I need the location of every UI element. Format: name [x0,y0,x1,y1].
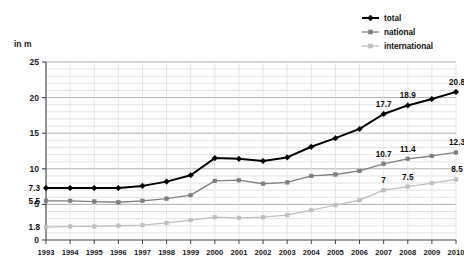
data-point-international [213,215,217,219]
series-line-international [46,179,456,227]
data-point-international [285,213,289,217]
data-point-international [309,208,313,212]
data-point-national [261,182,265,186]
data-point-national [334,173,338,177]
data-point-total [284,155,290,161]
point-value-label: 7 [381,176,386,185]
chart-legend: totalnationalinternational [362,14,433,51]
x-tick-label: 1998 [158,248,175,257]
data-point-national [116,200,120,204]
point-value-label: 18.9 [400,91,416,100]
y-axis-tick-labels: 0510152025 [30,57,40,245]
data-point-international [358,198,362,202]
x-tick-label: 1994 [62,248,80,257]
x-tick-label: 2008 [399,248,416,257]
point-value-label: 12.3 [449,138,464,147]
x-tick-label: 2003 [279,248,296,257]
data-point-international [116,224,120,228]
point-value-label: 5.5 [29,197,41,206]
data-point-national [213,179,217,183]
point-value-label: 8.5 [451,165,463,174]
chart-axes [46,62,456,240]
data-point-international [261,215,265,219]
x-tick-label: 2009 [423,248,440,257]
y-tick-label: 15 [30,128,40,138]
x-axis-tick-labels: 1993199419951996199719981999200020012002… [38,248,464,257]
point-value-label: 11.4 [400,145,416,154]
data-point-national [358,169,362,173]
y-tick-label: 20 [30,93,40,103]
data-point-national [141,199,145,203]
grid-minor-lines [46,69,456,233]
data-point-international [141,223,145,227]
legend-label-national: national [384,28,415,37]
data-point-national [165,197,169,201]
data-point-total [405,103,411,109]
data-point-national [237,178,241,182]
line-chart: 0510152025 19931994199519961997199819992… [0,0,464,274]
data-point-national [382,162,386,166]
data-point-international [430,181,434,185]
point-value-label: 17.7 [376,100,392,109]
grid-vertical-lines [46,62,456,240]
x-tick-label: 1993 [38,248,55,257]
x-tick-label: 1997 [134,248,151,257]
point-value-label: 10.7 [376,150,392,159]
point-value-label: 7.3 [29,184,41,193]
x-axis-tick-marks [46,240,456,244]
point-value-label: 20.8 [449,78,464,87]
x-tick-label: 1999 [182,248,199,257]
legend-label-international: international [384,42,433,51]
data-point-international [237,216,241,220]
data-point-total [236,156,242,162]
data-point-international [454,178,458,182]
x-tick-label: 1996 [110,248,127,257]
x-tick-label: 1995 [86,248,104,257]
data-point-national [92,200,96,204]
series-line-total [46,92,456,188]
legend-label-total: total [384,14,401,23]
y-tick-label: 25 [30,57,40,67]
data-point-total [140,183,146,189]
data-point-international [406,185,410,189]
y-axis-unit-label: in m [14,39,32,49]
data-point-national [68,199,72,203]
point-value-label: 1.8 [29,223,41,232]
legend-marker-total [368,15,374,21]
data-point-total [164,179,170,185]
data-point-national [406,157,410,161]
data-point-international [165,221,169,225]
data-point-national [454,151,458,155]
x-tick-label: 2002 [255,248,272,257]
series-lines [46,92,456,227]
x-tick-label: 2001 [230,248,248,257]
data-point-international [92,225,96,229]
x-tick-label: 2007 [375,248,392,257]
data-point-national [189,193,193,197]
data-point-national [44,199,48,203]
data-point-national [430,154,434,158]
y-tick-label: 10 [30,164,40,174]
data-point-international [189,218,193,222]
data-point-total [453,89,459,95]
x-tick-label: 2004 [303,248,321,257]
y-tick-label: 0 [34,235,39,245]
point-value-label: 7.5 [402,173,414,182]
legend-marker-national [368,30,372,34]
data-point-international [44,225,48,229]
data-point-international [334,203,338,207]
x-tick-label: 2006 [351,248,368,257]
data-point-national [309,174,313,178]
data-point-total [260,158,266,164]
legend-marker-international [368,44,372,48]
chart-canvas: 0510152025 19931994199519961997199819992… [0,0,464,274]
x-tick-label: 2000 [206,248,223,257]
data-point-national [285,180,289,184]
x-tick-label: 2010 [448,248,464,257]
data-point-total [429,96,435,102]
data-point-international [68,225,72,229]
x-tick-label: 2005 [327,248,345,257]
data-point-international [382,188,386,192]
y-axis-tick-marks [42,62,46,240]
